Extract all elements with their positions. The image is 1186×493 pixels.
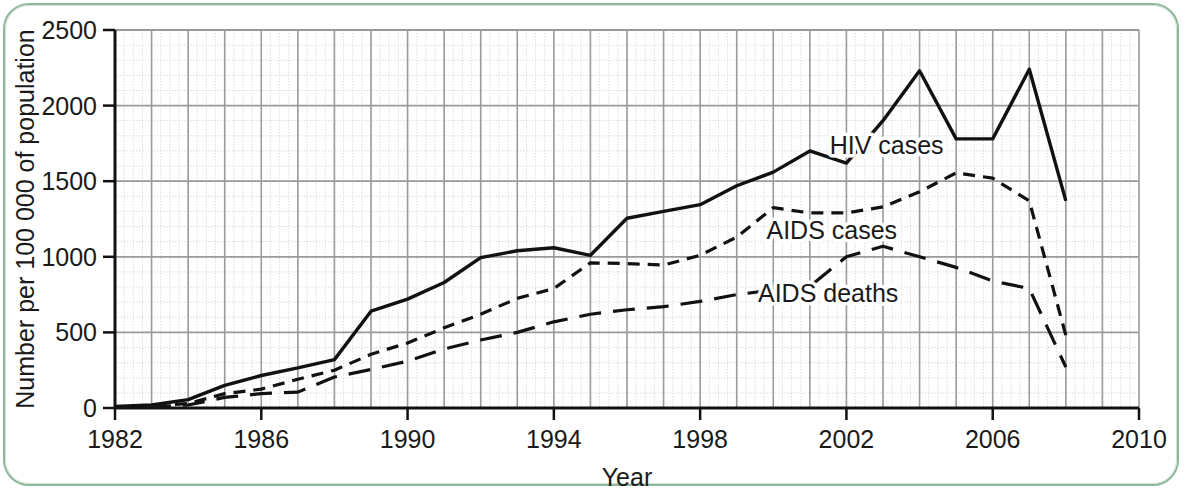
line-chart-plot: 05001000150020002500 1982198619901994199…	[0, 0, 1186, 493]
x-axis-tick-labels: 19821986199019941998200220062010	[87, 425, 1167, 453]
x-axis-ticks	[115, 408, 1139, 420]
series-label-aids-deaths: AIDS deaths	[758, 279, 898, 307]
series-label-aids-cases: AIDS cases	[766, 216, 897, 244]
y-tick-label: 500	[55, 318, 97, 346]
x-tick-label: 2006	[965, 425, 1021, 453]
x-tick-label: 1994	[526, 425, 582, 453]
x-tick-label: 2002	[819, 425, 875, 453]
y-axis-tick-labels: 05001000150020002500	[41, 16, 97, 422]
x-tick-label: 1982	[87, 425, 143, 453]
x-axis-title: Year	[602, 463, 653, 491]
x-tick-label: 1998	[672, 425, 728, 453]
x-tick-label: 2010	[1111, 425, 1167, 453]
y-tick-label: 2500	[41, 16, 97, 44]
y-tick-label: 0	[83, 394, 97, 422]
y-axis-ticks	[103, 30, 115, 408]
y-tick-label: 2000	[41, 92, 97, 120]
y-tick-label: 1500	[41, 167, 97, 195]
x-tick-label: 1986	[233, 425, 289, 453]
y-tick-label: 1000	[41, 243, 97, 271]
y-axis-title: Number per 100 000 of population	[11, 29, 39, 408]
chart-figure: 05001000150020002500 1982198619901994199…	[0, 0, 1186, 493]
series-label-hiv-cases: HIV cases	[830, 131, 944, 159]
x-tick-label: 1990	[380, 425, 436, 453]
